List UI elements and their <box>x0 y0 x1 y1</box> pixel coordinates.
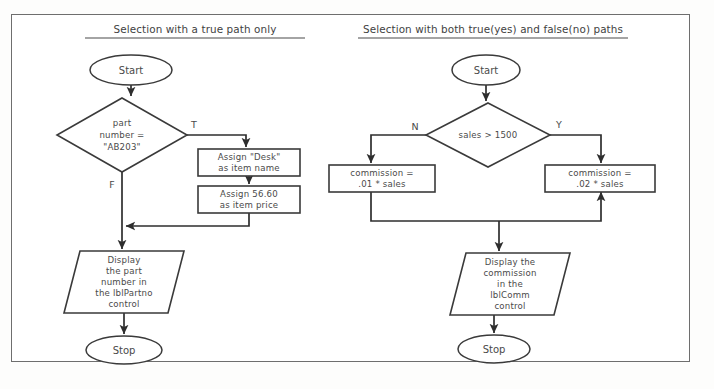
text-line: "AB203" <box>103 142 140 152</box>
decision-diamond-label-right: sales > 1500 <box>459 130 518 140</box>
chart-true-path-only: Selection with a true path only Start pa… <box>57 23 305 364</box>
start-terminal-label-right: Start <box>474 65 499 76</box>
flow-connector <box>550 135 601 163</box>
stop-terminal-label-left: Stop <box>113 345 136 356</box>
text-line: control <box>494 301 525 311</box>
text-line: .01 * sales <box>358 179 406 189</box>
text-line: the lblPartno <box>95 288 152 298</box>
chart-true-and-false-paths: Selection with both true(yes) and false(… <box>329 23 655 363</box>
branch-label-no-right: N <box>411 121 418 132</box>
flow-connector <box>371 135 426 163</box>
text-line: control <box>108 299 139 309</box>
text-line: in the <box>497 279 523 289</box>
process-box-assign-name-label: Assign "Desk"as item name <box>218 152 281 173</box>
process-box-commission-high-label: commission =.02 * sales <box>568 168 632 189</box>
flow-connector <box>371 192 601 221</box>
stop-terminal-label-right: Stop <box>483 344 506 355</box>
text-line: Assign 56.60 <box>220 189 278 199</box>
chart-title-right: Selection with both true(yes) and false(… <box>363 23 623 35</box>
text-line: .02 * sales <box>576 179 624 189</box>
process-box-commission-low-label: commission =.01 * sales <box>350 168 414 189</box>
text-line: Assign "Desk" <box>218 152 281 162</box>
text-line: Display <box>107 255 140 265</box>
process-box-assign-price-label: Assign 56.60as item price <box>220 189 279 210</box>
branch-label-false-left: F <box>109 179 114 190</box>
text-line: sales > 1500 <box>459 130 518 140</box>
text-line: the part <box>106 266 142 276</box>
text-line: lblComm <box>490 290 530 300</box>
branch-label-yes-right: Y <box>555 119 562 130</box>
text-line: commission = <box>350 168 414 178</box>
flow-connector <box>126 213 249 226</box>
chart-title-left: Selection with a true path only <box>114 23 277 35</box>
text-line: commission <box>483 268 536 278</box>
scanned-page: Selection with a true path only Start pa… <box>0 0 714 389</box>
start-terminal-label-left: Start <box>119 65 144 76</box>
text-line: number = <box>99 130 144 140</box>
branch-label-true-left: T <box>190 119 197 130</box>
text-line: as item price <box>220 200 279 210</box>
flow-connector <box>187 135 246 147</box>
text-line: as item name <box>218 163 279 173</box>
text-line: Display the <box>485 257 536 267</box>
text-line: commission = <box>568 168 632 178</box>
text-line: part <box>113 118 132 128</box>
flowchart-canvas: Selection with a true path only Start pa… <box>0 0 714 389</box>
text-line: number in <box>101 277 147 287</box>
